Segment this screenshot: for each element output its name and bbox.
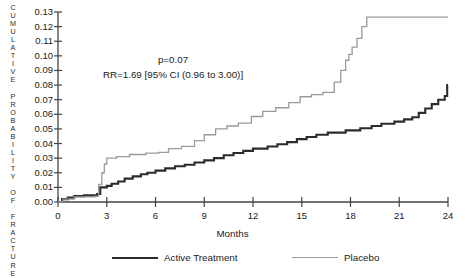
legend-line-swatch: [292, 257, 338, 258]
kaplan-meier-fracture-chart: C U M U L A T I V E P R O B A B I L I T …: [0, 0, 465, 278]
x-axis-tick-label: 9: [189, 211, 219, 221]
legend-label: Active Treatment: [164, 252, 238, 263]
x-axis-tick-label: 0: [43, 211, 73, 221]
chart-legend: Active TreatmentPlacebo: [0, 252, 465, 272]
x-axis-tick-label: 3: [92, 211, 122, 221]
x-axis-tick-label: 21: [384, 211, 414, 221]
risk-ratio-text: RR=1.69 [95% CI (0.96 to 3.00)]: [58, 67, 288, 82]
x-axis-tick-label: 15: [287, 211, 317, 221]
statistics-annotation: p=0.07 RR=1.69 [95% CI (0.96 to 3.00)]: [58, 52, 288, 82]
x-axis-title: Months: [0, 228, 465, 239]
x-axis-tick-label: 24: [433, 211, 463, 221]
legend-line-swatch: [112, 257, 158, 259]
p-value-text: p=0.07: [58, 52, 288, 67]
x-axis-tick-label: 6: [141, 211, 171, 221]
legend-item-active-treatment[interactable]: Active Treatment: [112, 252, 238, 263]
legend-item-placebo[interactable]: Placebo: [292, 252, 379, 263]
x-axis-tick-label: 12: [238, 211, 268, 221]
x-axis-tick-label: 18: [336, 211, 366, 221]
legend-label: Placebo: [344, 252, 379, 263]
